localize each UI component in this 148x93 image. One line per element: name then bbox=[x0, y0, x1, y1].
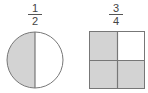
shaded-bottom-left bbox=[90, 61, 118, 89]
fraction-diagram bbox=[0, 0, 148, 93]
shaded-bottom-right bbox=[118, 61, 145, 89]
shaded-top-left bbox=[90, 32, 118, 61]
square-quarters-figure bbox=[90, 32, 145, 89]
unshaded-top-right bbox=[118, 32, 145, 61]
shaded-half bbox=[7, 32, 35, 88]
circle-half-figure bbox=[7, 32, 63, 88]
